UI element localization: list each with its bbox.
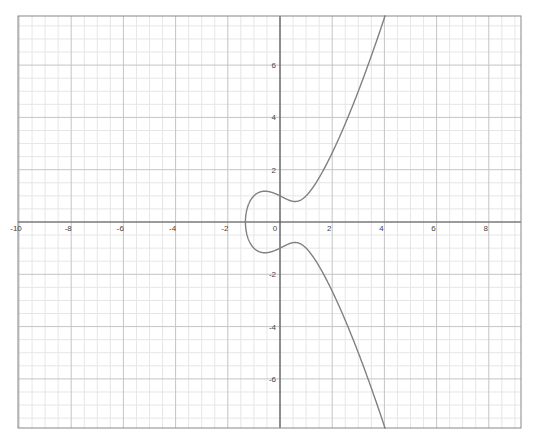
- x-tick-label: -4: [169, 224, 177, 233]
- x-tick-label: 4: [379, 224, 384, 233]
- x-tick-label: 2: [327, 224, 332, 233]
- x-tick-label: 0: [273, 224, 278, 233]
- x-tick-label: 6: [431, 224, 436, 233]
- y-tick-label: 4: [272, 113, 277, 122]
- y-tick-label: -6: [269, 375, 277, 384]
- y-tick-label: -2: [269, 270, 277, 279]
- x-tick-label: -6: [117, 224, 125, 233]
- y-tick-label: -4: [269, 323, 277, 332]
- x-tick-label: -2: [221, 224, 229, 233]
- y-tick-label: 2: [272, 166, 277, 175]
- y-tick-label: 6: [272, 61, 277, 70]
- x-tick-label: -8: [65, 224, 73, 233]
- x-axis-tick-labels: -10-8-6-4-202468: [10, 224, 488, 233]
- x-tick-label: 8: [484, 224, 489, 233]
- x-tick-label: -10: [10, 224, 22, 233]
- graph-canvas[interactable]: -10-8-6-4-202468 -6-4-2246: [0, 0, 539, 444]
